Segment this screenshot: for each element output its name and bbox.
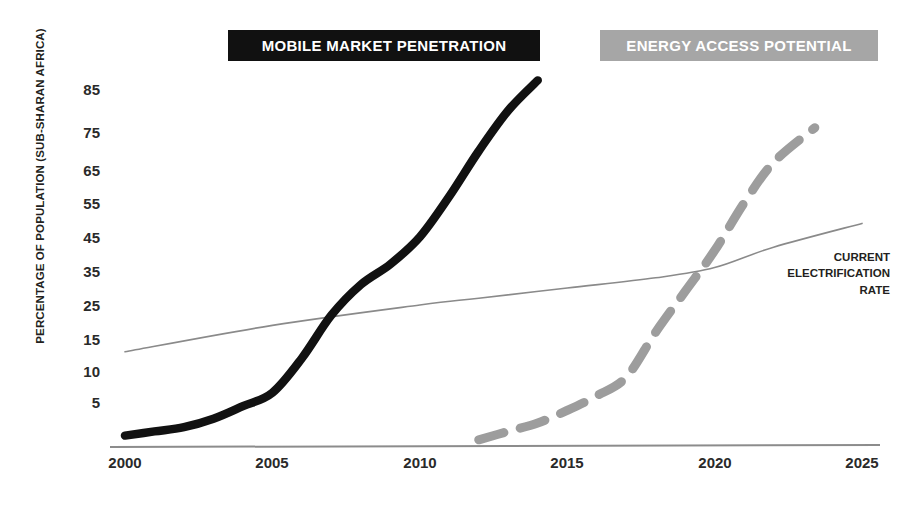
legend-banner-energy-access-potential: ENERGY ACCESS POTENTIAL [600,30,878,61]
annotation-line-2: ELECTRIFICATION [738,265,890,281]
bottom-caption [440,492,770,502]
x-axis-baseline [110,445,880,447]
annotation-line-1: CURRENT [738,249,890,265]
legend-banner-mobile-market-penetration: MOBILE MARKET PENETRATION [228,30,540,61]
annotation-line-3: RATE [738,282,890,298]
series-line-mobile-market-penetration [125,80,538,435]
chart-figure: PERCENTAGE OF POPULATION (SUB-SHARAN AFR… [0,0,910,505]
annotation-current-electrification-rate: CURRENT ELECTRIFICATION RATE [738,249,890,298]
